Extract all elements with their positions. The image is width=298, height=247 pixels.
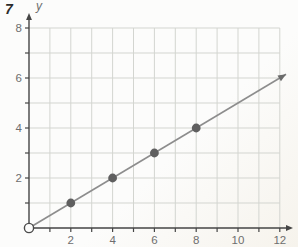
x-axis-arrow-icon [286,225,293,231]
y-tick-label: 8 [16,22,22,34]
worksheet-page: 7 246810122468y [0,0,298,247]
x-tick-label: 8 [193,234,199,246]
x-tick-label: 2 [68,234,74,246]
data-point [66,199,75,208]
origin-open-point [24,223,33,232]
x-tick-label: 4 [109,234,116,246]
data-point [150,149,159,158]
y-tick-label: 2 [16,172,22,184]
data-point [192,124,201,133]
y-axis-arrow-icon [26,13,32,20]
coordinate-graph: 246810122468y [0,0,298,247]
y-tick-label: 6 [16,72,22,84]
y-tick-label: 4 [16,122,23,134]
x-tick-label: 12 [273,234,286,246]
x-tick-label: 6 [151,234,157,246]
data-point [108,174,117,183]
y-axis-label: y [35,0,43,13]
x-tick-label: 10 [232,234,245,246]
